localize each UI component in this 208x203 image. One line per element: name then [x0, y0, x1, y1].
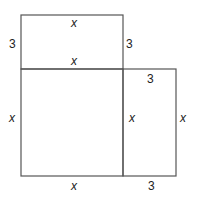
label-top-rect-top: x [70, 16, 78, 30]
label-square-left: x [8, 111, 16, 125]
label-right-rect-bottom: 3 [148, 179, 155, 193]
label-right-rect-right: x [179, 111, 187, 125]
label-top-rect-right: 3 [126, 37, 133, 51]
label-top-rect-bottom: x [70, 54, 78, 68]
label-square-right: x [128, 111, 136, 125]
label-square-bottom: x [70, 179, 78, 193]
area-model-diagram: x 3 3 x 3 x x x x 3 [0, 0, 208, 203]
main-square [21, 69, 123, 176]
label-right-rect-top: 3 [147, 72, 154, 86]
label-top-rect-left: 3 [9, 37, 16, 51]
